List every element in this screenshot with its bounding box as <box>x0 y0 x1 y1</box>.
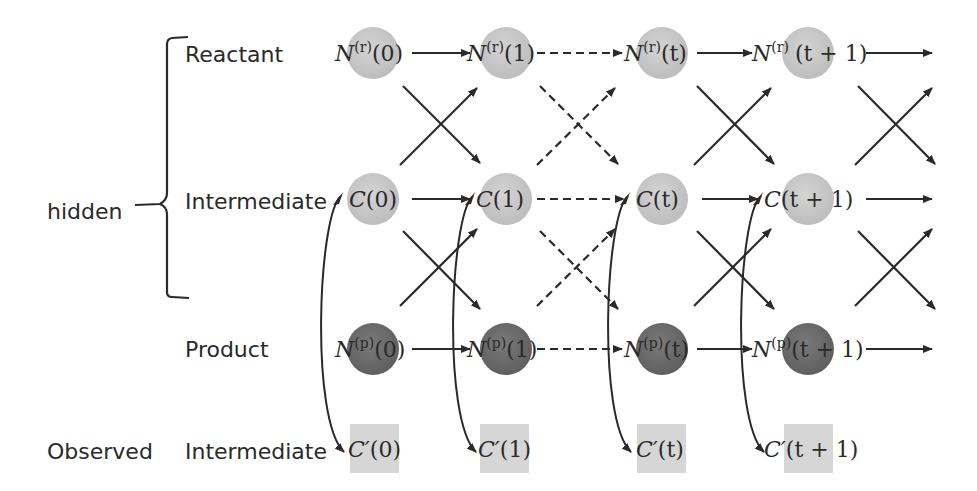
row-label-product: Product <box>185 337 269 362</box>
node-observed-t-plus-1: C′(t + 1) <box>764 437 858 462</box>
observed-group-label: Observed <box>47 439 153 464</box>
row-label-observed-intermediate: Intermediate <box>185 439 327 464</box>
observed-node-labels: C′(0) C′(1) C′(t) C′(t + 1) <box>348 437 858 462</box>
hidden-group-label: hidden <box>47 199 122 224</box>
node-intermediate-1: C(1) <box>476 187 524 212</box>
node-observed-t: C′(t) <box>636 437 684 462</box>
node-observed-0: C′(0) <box>348 437 401 462</box>
node-intermediate-t-plus-1: C(t + 1) <box>764 187 853 212</box>
hidden-brace <box>135 37 189 298</box>
row-label-reactant: Reactant <box>185 42 283 67</box>
node-intermediate-0: C(0) <box>349 187 397 212</box>
node-reactant-t-plus-1: N(r)(t + 1) <box>751 39 867 66</box>
row-label-intermediate: Intermediate <box>185 189 327 214</box>
node-observed-1: C′(1) <box>478 437 531 462</box>
node-intermediate-t: C(t) <box>636 187 679 212</box>
node-product-t-plus-1: N(p)(t + 1) <box>751 335 864 362</box>
diagram-canvas: hidden Observed Reactant Intermediate Pr… <box>0 0 977 491</box>
